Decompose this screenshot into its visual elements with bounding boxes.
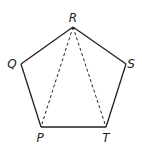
label-R: R <box>69 11 77 25</box>
pentagon-diagram: R S T P Q <box>0 0 142 149</box>
label-P: P <box>36 131 44 145</box>
edge-ST <box>106 64 126 127</box>
edge-QR <box>21 27 73 64</box>
label-S: S <box>127 57 135 71</box>
label-T: T <box>102 131 111 145</box>
edge-RS <box>73 27 126 64</box>
label-Q: Q <box>7 57 16 71</box>
edge-PQ <box>21 64 41 127</box>
vertex-labels: R S T P Q <box>7 11 135 145</box>
diagonal-RP <box>41 27 73 127</box>
pentagon-edges <box>21 27 126 127</box>
dashed-diagonals <box>41 27 106 127</box>
diagonal-RT <box>73 27 106 127</box>
